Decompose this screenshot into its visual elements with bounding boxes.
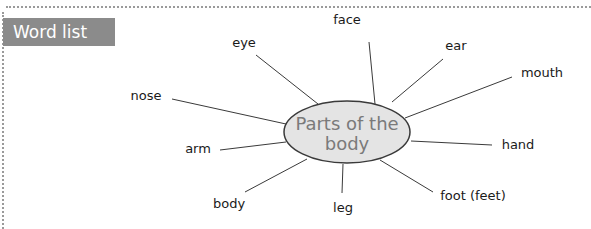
line-arm — [220, 142, 286, 150]
line-hand — [411, 141, 492, 145]
word-hand: hand — [502, 137, 535, 152]
word-mouth: mouth — [521, 65, 563, 80]
line-nose — [172, 99, 286, 124]
center-label-line1: Parts of the — [295, 113, 398, 134]
word-nose: nose — [131, 88, 162, 103]
line-mouth — [405, 77, 512, 118]
mind-map: Parts of the body face eye ear mouth nos… — [0, 0, 591, 229]
center-label-line2: body — [325, 133, 370, 154]
word-leg: leg — [333, 200, 353, 215]
word-eye: eye — [232, 35, 256, 50]
word-body: body — [213, 196, 245, 211]
word-face: face — [333, 12, 361, 27]
line-face — [369, 42, 375, 104]
line-eye — [256, 55, 318, 104]
word-arm: arm — [185, 141, 211, 156]
line-ear — [392, 59, 443, 102]
line-leg — [342, 164, 343, 193]
word-ear: ear — [445, 38, 467, 53]
word-foot-feet: foot (feet) — [440, 188, 506, 203]
line-body — [245, 159, 307, 192]
line-foot — [380, 160, 433, 192]
